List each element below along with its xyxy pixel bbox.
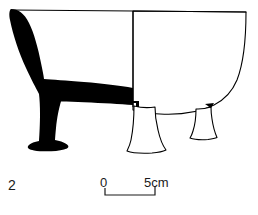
vessel-section-fill [9,9,133,151]
scale-bar-bracket [105,187,155,195]
figure-number: 2 [8,178,16,192]
vessel-rim-line [11,10,246,12]
scale-area: 2 0 5cm [0,168,258,215]
figure-plate: 2 0 5cm [0,0,258,215]
vessel-profile-body [133,11,246,114]
vessel-drawing [0,0,258,170]
scale-bar [96,186,166,202]
